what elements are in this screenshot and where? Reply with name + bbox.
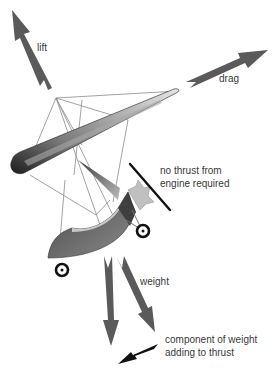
component-label-line2: adding to thrust: [165, 347, 234, 359]
no-thrust-label-line1: no thrust from: [160, 165, 222, 177]
lift-label: lift: [37, 42, 47, 54]
thrust-component-arrow-icon: [118, 344, 158, 364]
component-label-line1: component of weight: [165, 334, 257, 346]
no-thrust-label-line2: engine required: [160, 178, 230, 190]
weight-arrow-icon: [103, 256, 119, 346]
glide-forces-diagram: lift drag no thrust from engine required…: [0, 0, 277, 377]
drag-label: drag: [219, 73, 239, 85]
rigging-wires: [30, 91, 178, 240]
wing: [11, 89, 179, 174]
weight-component-arrow-icon: [116, 256, 155, 332]
weight-label: weight: [140, 276, 169, 288]
diagram-canvas: [0, 0, 277, 377]
